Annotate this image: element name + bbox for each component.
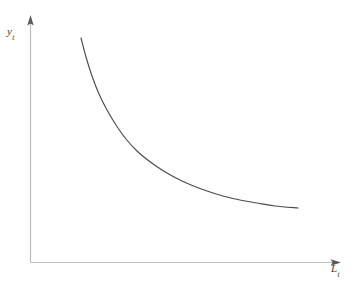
x-axis-label-subscript: t: [337, 270, 339, 279]
demand-curve: [81, 38, 298, 208]
y-axis-label: yt: [7, 26, 14, 40]
x-axis-label: Lt: [331, 263, 339, 277]
figure-container: yt Lt: [0, 0, 354, 282]
y-axis-label-subscript: t: [12, 33, 14, 42]
plot-canvas: [0, 0, 354, 282]
